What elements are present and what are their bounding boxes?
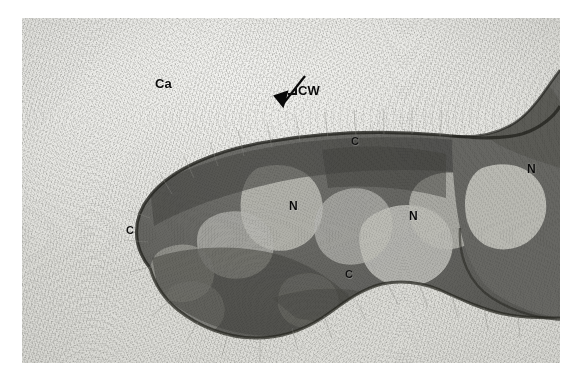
label-cell-wall: CW: [298, 84, 320, 97]
label-nucleoid-1: N: [289, 200, 298, 212]
label-nucleoid-3: N: [527, 163, 536, 175]
figure-root: Ca CW C C C N N N: [0, 0, 570, 389]
label-nucleoid-2: N: [409, 210, 418, 222]
label-cytoplasm-2: C: [126, 225, 134, 236]
label-capsule: Ca: [155, 77, 172, 90]
label-cytoplasm-1: C: [351, 136, 359, 147]
cell-wall-bracket-icon: [288, 87, 297, 95]
electron-micrograph-image: Ca CW C C C N N N: [22, 18, 560, 363]
label-cytoplasm-3: C: [345, 269, 353, 280]
